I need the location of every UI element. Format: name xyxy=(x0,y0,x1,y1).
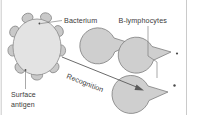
surface-antigen-label-line2: antigen xyxy=(11,101,35,109)
bacterium-group xyxy=(8,11,66,89)
bacterium-label: Bacterium xyxy=(64,16,97,25)
b-lymphocyte-cell xyxy=(112,75,168,113)
figure-container: Recognition Bacterium B-lymphocytes Surf… xyxy=(0,0,197,115)
bacterium-cell-body xyxy=(13,19,61,75)
b-lymphocyte-cell xyxy=(118,37,171,73)
recognition-label: Recognition xyxy=(65,71,105,94)
b-lymphocytes-label: B-lymphocytes xyxy=(119,16,168,25)
surface-antigen-label-line1: Surface xyxy=(11,91,36,98)
b-lymphocyte-nucleus xyxy=(173,84,175,86)
b-lymphocyte-nucleus xyxy=(176,52,178,54)
immune-recognition-diagram: Recognition Bacterium B-lymphocytes Surf… xyxy=(0,0,197,115)
bacterium-leader-dot xyxy=(39,23,41,25)
